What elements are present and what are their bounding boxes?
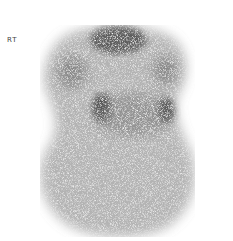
scintigraphy-image (0, 0, 233, 241)
orientation-label-right: RT (7, 36, 18, 44)
scan-svg (0, 0, 233, 241)
